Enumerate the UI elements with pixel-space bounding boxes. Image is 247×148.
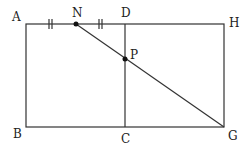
- label-B: B: [13, 127, 22, 141]
- label-D: D: [121, 6, 131, 20]
- label-H: H: [229, 16, 239, 30]
- label-P: P: [130, 48, 138, 62]
- label-N: N: [72, 6, 83, 20]
- geometry-diagram: A N D H P B C G: [0, 0, 247, 148]
- point-P-dot: [123, 57, 128, 62]
- point-N-dot: [74, 22, 79, 27]
- segment-NG: [76, 24, 224, 127]
- label-A: A: [11, 10, 21, 24]
- label-C: C: [121, 132, 130, 146]
- label-G: G: [228, 129, 238, 143]
